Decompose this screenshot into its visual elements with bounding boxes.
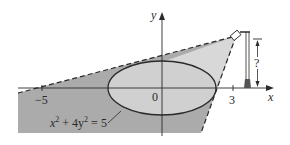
height-arrow-up-icon: [256, 40, 260, 46]
height-arrow-down-icon: [256, 81, 260, 87]
tick-label-3: 3: [229, 93, 235, 107]
y-axis-label: y: [150, 8, 157, 22]
tick-label-neg5: −5: [35, 93, 48, 107]
lamp-post: [230, 30, 251, 88]
origin-label: 0: [152, 90, 158, 104]
ellipse-shadow-diagram: −5 3 0 x y x2 + 4y2 = 5 ?: [0, 0, 290, 145]
lamp-height-label: ?: [254, 56, 259, 70]
lamp-base-icon: [244, 79, 251, 88]
x-axis-label: x: [267, 90, 274, 104]
y-axis-arrow-icon: [159, 12, 165, 20]
